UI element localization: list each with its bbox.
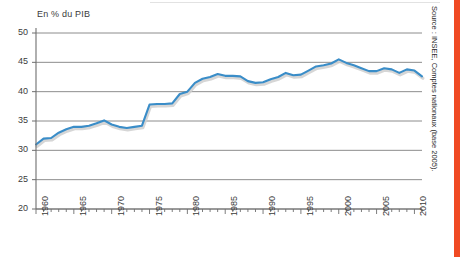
x-tick-label-1985: 1985	[229, 196, 239, 216]
figure-container: En % du PIB 50454035302520 1960196519701…	[0, 0, 462, 257]
chart-plot-area	[0, 0, 462, 257]
x-tick-label-1960: 1960	[40, 196, 50, 216]
x-tick-label-1995: 1995	[305, 196, 315, 216]
source-note-wrapper: Source : INSEE, Comptes nationaux (base …	[436, 6, 450, 250]
y-tick-label-20: 20	[10, 203, 28, 213]
major-ticks-group	[32, 33, 414, 214]
y-tick-label-35: 35	[10, 115, 28, 125]
y-tick-label-25: 25	[10, 174, 28, 184]
source-note: Source : INSEE, Comptes nationaux (base …	[430, 6, 439, 172]
y-tick-label-50: 50	[10, 27, 28, 37]
y-tick-label-40: 40	[10, 86, 28, 96]
x-tick-label-2010: 2010	[418, 196, 428, 216]
x-tick-label-1980: 1980	[191, 196, 201, 216]
series-line-shadow	[37, 61, 423, 146]
x-tick-label-1965: 1965	[78, 196, 88, 216]
y-tick-label-30: 30	[10, 144, 28, 154]
y-tick-label-45: 45	[10, 56, 28, 66]
x-tick-label-2000: 2000	[343, 196, 353, 216]
x-tick-label-2005: 2005	[381, 196, 391, 216]
x-tick-label-1975: 1975	[154, 196, 164, 216]
x-tick-label-1990: 1990	[267, 196, 277, 216]
gridlines-group	[36, 33, 422, 209]
x-tick-label-1970: 1970	[116, 196, 126, 216]
